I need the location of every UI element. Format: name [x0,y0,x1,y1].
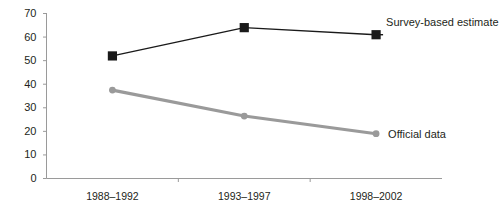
data-series-layer [108,23,381,137]
y-axis-tick-label: 20 [11,126,37,137]
y-axis-tick-label: 70 [11,8,37,19]
x-axis-tick-label: 1993–1997 [184,191,304,202]
x-axis-tick-label: 1998–2002 [316,191,436,202]
y-axis-tick-label: 40 [11,79,37,90]
y-axis-ticks [43,14,47,179]
y-axis-tick-label: 50 [11,55,37,66]
data-point-marker-circle [373,130,380,137]
data-point-marker-square [240,23,249,32]
x-axis-ticks [178,179,310,183]
data-point-marker-square [108,51,117,60]
data-point-marker-circle [241,113,248,120]
series-label: Official data [388,129,446,140]
y-axis-tick-label: 10 [11,149,37,160]
y-axis-tick-label: 60 [11,32,37,43]
y-axis-tick-label: 0 [11,173,37,184]
series-line [112,90,376,134]
series-label: Survey-based estimate [386,17,499,28]
x-axis-tick-label: 1988–1992 [52,191,172,202]
y-axis-tick-label: 30 [11,102,37,113]
data-point-marker-circle [109,87,116,94]
